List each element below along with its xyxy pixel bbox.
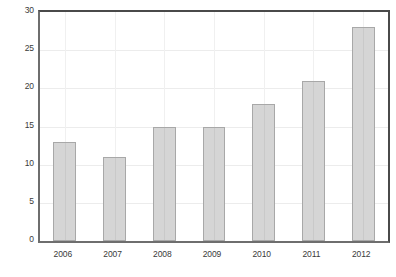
bar-2009[interactable]: [203, 127, 226, 242]
plot-area: [38, 10, 390, 243]
y-tick-label: 30: [2, 5, 34, 15]
x-tick-label: 2007: [103, 249, 122, 259]
x-tick-label: 2006: [54, 249, 73, 259]
y-tick-label: 10: [2, 158, 34, 168]
y-tick-label: 20: [2, 81, 34, 91]
bar-2011[interactable]: [302, 81, 325, 241]
x-tick-label: 2010: [252, 249, 271, 259]
bar-2008[interactable]: [153, 127, 176, 242]
x-tick-label: 2008: [153, 249, 172, 259]
y-tick-label: 0: [2, 234, 34, 244]
bar-center-line: [164, 128, 165, 241]
bar-chart: 051015202530 200620072008200920102011201…: [0, 0, 396, 277]
bar-center-line: [363, 28, 364, 240]
y-axis: 051015202530: [0, 10, 34, 243]
y-tick-label: 25: [2, 43, 34, 53]
bar-center-line: [65, 143, 66, 240]
bar-2012[interactable]: [352, 27, 375, 241]
bar-2007[interactable]: [103, 157, 126, 241]
y-tick-label: 15: [2, 120, 34, 130]
bar-center-line: [264, 105, 265, 240]
bar-center-line: [115, 158, 116, 240]
x-tick-label: 2009: [203, 249, 222, 259]
x-tick-label: 2012: [352, 249, 371, 259]
bar-2010[interactable]: [252, 104, 275, 241]
bar-2006[interactable]: [53, 142, 76, 241]
x-axis: 2006200720082009201020112012: [38, 245, 390, 269]
x-tick-label: 2011: [302, 249, 320, 259]
bar-center-line: [313, 82, 314, 240]
y-tick-label: 5: [2, 196, 34, 206]
bar-center-line: [214, 128, 215, 241]
